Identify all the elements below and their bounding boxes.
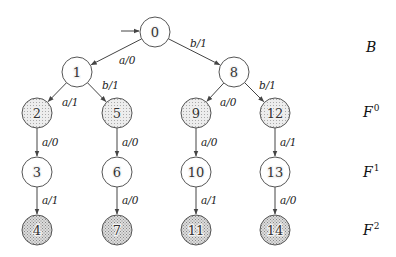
state-label: 0	[151, 25, 159, 40]
edge-label: a/0	[201, 136, 218, 148]
edge-label: a/1	[42, 194, 58, 206]
state-node-11: 11	[181, 215, 211, 245]
state-node-8: 8	[219, 57, 249, 87]
state-label: 13	[267, 165, 284, 180]
state-label: 9	[192, 106, 200, 121]
state-node-7: 7	[102, 215, 132, 245]
edge-label: b/1	[190, 37, 207, 49]
state-node-12: 12	[260, 98, 290, 128]
state-label: 1	[73, 65, 81, 80]
edge-label: a/1	[280, 136, 296, 148]
edges-layer: a/0b/1a/1b/1a/0b/1a/0a/0a/0a/1a/1a/0a/1a…	[37, 31, 297, 214]
state-node-3: 3	[22, 157, 52, 187]
state-label: 2	[33, 106, 41, 121]
row-labels-layer: BF0F1F2	[362, 39, 380, 238]
state-label: 6	[113, 165, 121, 180]
state-label: 10	[188, 165, 205, 180]
state-label: 7	[113, 223, 121, 238]
edge-label: b/1	[259, 79, 276, 91]
state-node-1: 1	[62, 57, 92, 87]
state-node-10: 10	[181, 157, 211, 187]
state-node-6: 6	[102, 157, 132, 187]
row-label-f1: F1	[362, 163, 379, 180]
state-label: 3	[33, 165, 41, 180]
state-label: 11	[188, 223, 205, 238]
state-label: 4	[33, 223, 41, 238]
state-label: 8	[230, 65, 238, 80]
edge-label: a/0	[280, 194, 297, 206]
state-label: 12	[267, 106, 284, 121]
state-label: 14	[267, 223, 284, 238]
edge-label: a/0	[220, 96, 237, 108]
row-label-f2: F2	[362, 221, 379, 238]
state-node-2: 2	[22, 98, 52, 128]
state-label: 5	[113, 106, 121, 121]
state-node-13: 13	[260, 157, 290, 187]
edge-label: a/0	[122, 194, 139, 206]
edge-label: a/1	[62, 96, 78, 108]
state-node-9: 9	[181, 98, 211, 128]
state-node-14: 14	[260, 215, 290, 245]
state-node-4: 4	[22, 215, 52, 245]
edge-label: a/1	[201, 194, 217, 206]
state-tree-diagram: a/0b/1a/1b/1a/0b/1a/0a/0a/0a/1a/1a/0a/1a…	[0, 0, 396, 257]
edge-label: a/0	[119, 54, 136, 66]
edge-label: b/1	[102, 79, 119, 91]
edge-label: a/0	[42, 136, 59, 148]
edge-label: a/0	[122, 136, 139, 148]
row-label-f0: F0	[362, 103, 380, 120]
state-node-5: 5	[102, 98, 132, 128]
nodes-layer: 01825912361013471114	[22, 17, 290, 245]
row-label-b: B	[365, 39, 376, 55]
state-node-0: 0	[140, 17, 170, 47]
